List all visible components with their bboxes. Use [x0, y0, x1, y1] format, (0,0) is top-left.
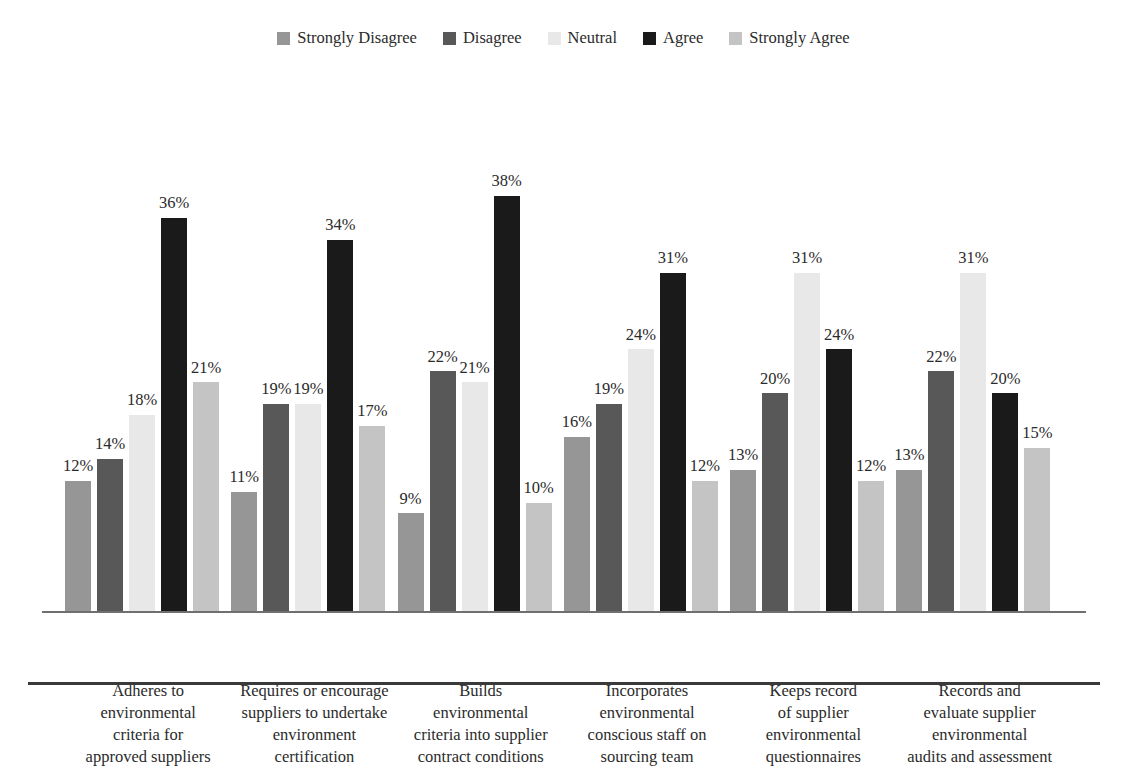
bar[interactable] [263, 404, 289, 612]
bar-value-label: 18% [127, 392, 157, 409]
legend-item-agree[interactable]: Agree [643, 30, 703, 47]
bar-item[interactable]: 14% [97, 120, 123, 612]
bar-value-label: 34% [325, 217, 355, 234]
bar[interactable] [1024, 448, 1050, 612]
bar-item[interactable]: 12% [692, 120, 718, 612]
bar[interactable] [992, 393, 1018, 612]
bar[interactable] [193, 382, 219, 612]
bar[interactable] [960, 273, 986, 612]
bar-group: 13%22%31%20%15% [896, 120, 1062, 612]
bar-value-label: 38% [491, 173, 521, 190]
bar-item[interactable]: 22% [928, 120, 954, 612]
bar-value-label: 31% [792, 250, 822, 267]
legend-item-strongly-agree[interactable]: Strongly Agree [729, 30, 849, 47]
bar-item[interactable]: 20% [992, 120, 1018, 612]
bar-value-label: 10% [523, 480, 553, 497]
bar[interactable] [129, 415, 155, 612]
legend-label: Disagree [463, 30, 522, 47]
bar[interactable] [928, 371, 954, 612]
bar-item[interactable]: 21% [193, 120, 219, 612]
bar[interactable] [295, 404, 321, 612]
bar-item[interactable]: 11% [231, 120, 257, 612]
bar-value-label: 20% [990, 371, 1020, 388]
bar-item[interactable]: 9% [398, 120, 424, 612]
bar[interactable] [462, 382, 488, 612]
bar-value-label: 21% [191, 360, 221, 377]
category-label-line: suppliers to undertake [233, 702, 395, 724]
bar[interactable] [398, 513, 424, 612]
bar-item[interactable]: 34% [327, 120, 353, 612]
bar-item[interactable]: 12% [858, 120, 884, 612]
bar[interactable] [858, 481, 884, 612]
category-label: Keeps recordof supplierenvironmentalques… [730, 680, 896, 768]
bar[interactable] [660, 273, 686, 612]
bar[interactable] [161, 218, 187, 612]
bar[interactable] [430, 371, 456, 612]
bar[interactable] [564, 437, 590, 612]
bar-group: 16%19%24%31%12% [564, 120, 730, 612]
bar[interactable] [231, 492, 257, 612]
category-label-line: environmental [898, 724, 1060, 746]
chart-plot-area: 12%14%18%36%21%11%19%19%34%17%9%22%21%38… [0, 60, 1127, 553]
bar-item[interactable]: 10% [526, 120, 552, 612]
bar-item[interactable]: 19% [295, 120, 321, 612]
bar-item[interactable]: 24% [826, 120, 852, 612]
bar-item[interactable]: 31% [960, 120, 986, 612]
bar-item[interactable]: 15% [1024, 120, 1050, 612]
bar-item[interactable]: 24% [628, 120, 654, 612]
bar-value-label: 36% [159, 195, 189, 212]
bar[interactable] [826, 349, 852, 612]
bar-item[interactable]: 31% [660, 120, 686, 612]
bar-item[interactable]: 19% [263, 120, 289, 612]
bar-item[interactable]: 18% [129, 120, 155, 612]
bar[interactable] [359, 426, 385, 612]
legend-item-neutral[interactable]: Neutral [548, 30, 617, 47]
bar-value-label: 19% [594, 381, 624, 398]
legend-item-disagree[interactable]: Disagree [443, 30, 522, 47]
bar-value-label: 13% [894, 447, 924, 464]
bar-group: 13%20%31%24%12% [730, 120, 896, 612]
legend-swatch-icon [729, 32, 742, 45]
bar[interactable] [896, 470, 922, 612]
category-label-line: certification [233, 746, 395, 768]
legend-label: Strongly Agree [749, 30, 849, 47]
bar[interactable] [762, 393, 788, 612]
bar-group: 11%19%19%34%17% [231, 120, 397, 612]
category-label-line: contract conditions [400, 746, 562, 768]
bar-value-label: 31% [958, 250, 988, 267]
bar-group: 9%22%21%38%10% [398, 120, 564, 612]
bar-item[interactable]: 17% [359, 120, 385, 612]
bar-item[interactable]: 21% [462, 120, 488, 612]
bar[interactable] [628, 349, 654, 612]
bar-value-label: 21% [459, 360, 489, 377]
category-label-line: audits and assessment [898, 746, 1060, 768]
bar[interactable] [97, 459, 123, 612]
category-label: Buildsenvironmentalcriteria into supplie… [398, 680, 564, 768]
bar[interactable] [526, 503, 552, 613]
bar-item[interactable]: 16% [564, 120, 590, 612]
bar[interactable] [327, 240, 353, 612]
bar-value-label: 20% [760, 371, 790, 388]
chart-legend: Strongly DisagreeDisagreeNeutralAgreeStr… [0, 30, 1127, 47]
bar[interactable] [730, 470, 756, 612]
bar-item[interactable]: 13% [730, 120, 756, 612]
bar-value-label: 16% [562, 414, 592, 431]
bottom-rule-divider [28, 682, 1100, 685]
legend-item-strongly-disagree[interactable]: Strongly Disagree [277, 30, 417, 47]
bar-item[interactable]: 22% [430, 120, 456, 612]
bar[interactable] [692, 481, 718, 612]
bar[interactable] [494, 196, 520, 612]
category-label-line: questionnaires [732, 746, 894, 768]
bar-item[interactable]: 12% [65, 120, 91, 612]
bar-item[interactable]: 19% [596, 120, 622, 612]
bar-item[interactable]: 36% [161, 120, 187, 612]
bar-value-label: 12% [856, 458, 886, 475]
bar-item[interactable]: 38% [494, 120, 520, 612]
bar-item[interactable]: 20% [762, 120, 788, 612]
bar[interactable] [596, 404, 622, 612]
bar-item[interactable]: 13% [896, 120, 922, 612]
legend-swatch-icon [277, 32, 290, 45]
bar[interactable] [65, 481, 91, 612]
bar[interactable] [794, 273, 820, 612]
bar-item[interactable]: 31% [794, 120, 820, 612]
